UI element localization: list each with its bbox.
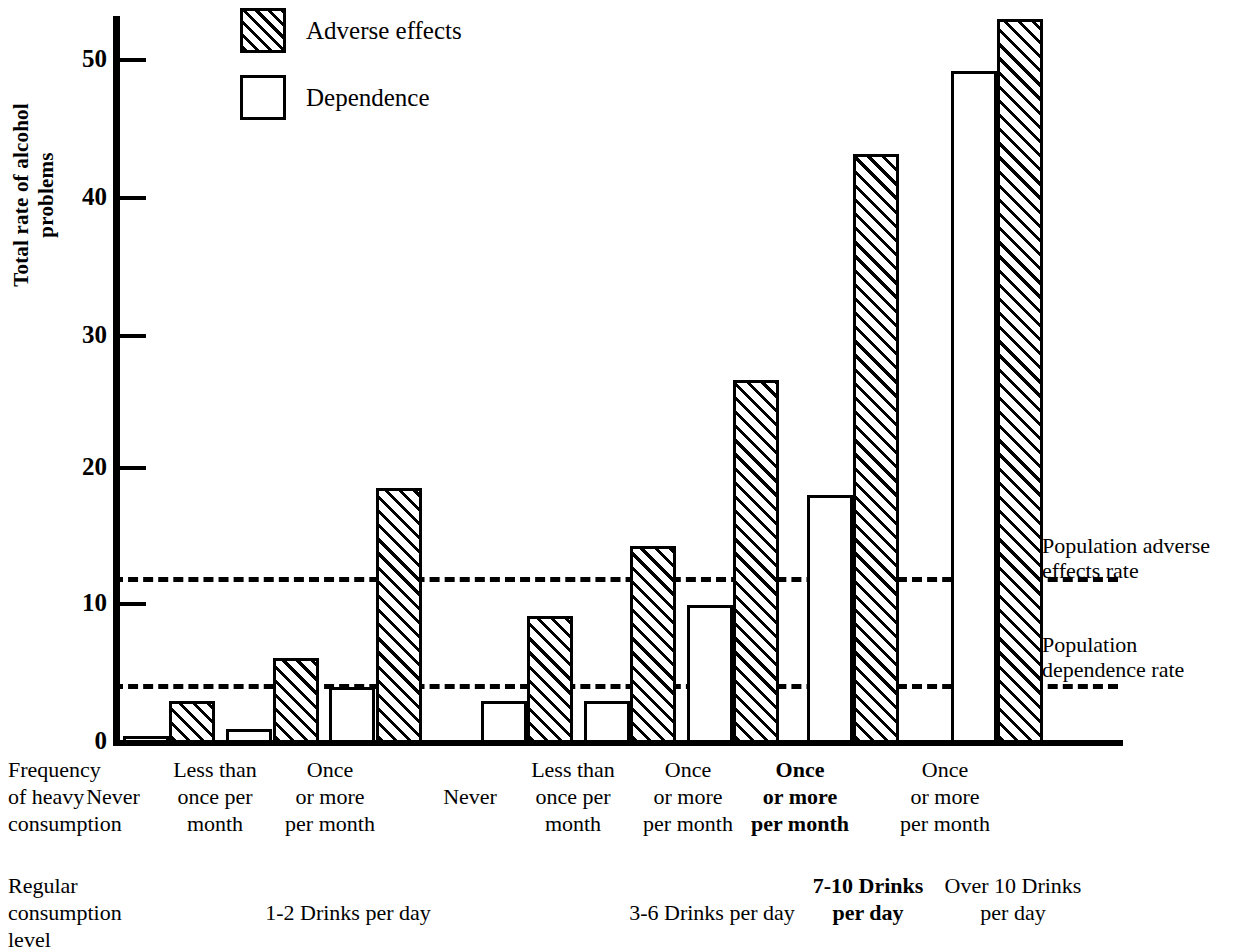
x-frequency-label-8-line2: or more — [875, 783, 1015, 810]
x-frequency-label-3-line1: Once — [260, 756, 400, 783]
bar-dependence-3 — [329, 687, 375, 743]
plot-area — [113, 16, 1123, 743]
x-consumption-level-label-4: Over 10 Drinksper day — [903, 872, 1123, 926]
annotation-adverse-rate-line1: Population adverse — [1042, 533, 1210, 558]
y-axis-title: Total rate of alcohol problems — [9, 65, 59, 325]
x-frequency-label-8-line3: per month — [875, 810, 1015, 837]
bar-adverse-effects-7 — [853, 154, 899, 743]
x-frequency-label-3-line2: or more — [260, 783, 400, 810]
bar-adverse-effects-6 — [733, 380, 779, 744]
bar-dependence-6 — [687, 605, 733, 743]
x-frequency-label-3-line3: per month — [260, 810, 400, 837]
annotation-dependence-rate-line1: Population — [1042, 632, 1137, 657]
x-consumption-level-label-4-line1: Over 10 Drinks — [903, 872, 1123, 899]
annotation-dependence-rate-line2: dependence rate — [1042, 657, 1184, 682]
bar-dependence-8 — [951, 71, 997, 743]
level-row-head-line1: Regular — [8, 872, 78, 899]
level-row-head-line2: consumption — [8, 899, 122, 926]
bar-adverse-effects-2 — [273, 658, 319, 743]
x-axis-consumption-level-row: Regular consumption level 1-2 Drinks per… — [0, 872, 1244, 947]
y-tick-label-0: 0 — [55, 728, 107, 753]
annotation-adverse-rate-line2: effects rate — [1042, 558, 1139, 583]
level-row-head-line3: level — [8, 926, 51, 951]
bar-dependence-5 — [584, 701, 630, 743]
x-axis-frequency-row: Frequency of heavy consumption NeverLess… — [0, 756, 1244, 866]
x-consumption-level-label-1-line1: 1-2 Drinks per day — [238, 899, 458, 926]
x-frequency-label-3: Onceor moreper month — [260, 756, 400, 837]
bar-adverse-effects-4 — [527, 616, 573, 743]
bar-adverse-effects-8 — [997, 19, 1043, 743]
y-tick-label-40: 40 — [55, 184, 107, 209]
bar-dependence-1 — [123, 736, 169, 743]
y-tick-label-20: 20 — [55, 454, 107, 479]
bar-dependence-2 — [226, 729, 272, 743]
bar-dependence-7 — [807, 495, 853, 743]
x-consumption-level-label-4-line2: per day — [903, 899, 1123, 926]
x-frequency-label-7-line1: Once — [730, 756, 870, 783]
x-frequency-label-8-line1: Once — [875, 756, 1015, 783]
bar-adverse-effects-1 — [169, 701, 215, 743]
x-frequency-label-7-line2: or more — [730, 783, 870, 810]
y-tick-label-30: 30 — [55, 322, 107, 347]
x-frequency-label-7-line3: per month — [730, 810, 870, 837]
y-tick-label-50: 50 — [55, 46, 107, 71]
x-frequency-label-7: Onceor moreper month — [730, 756, 870, 837]
y-tick-label-10: 10 — [55, 590, 107, 615]
bar-dependence-4 — [481, 701, 527, 743]
x-frequency-label-8: Onceor moreper month — [875, 756, 1015, 837]
x-consumption-level-label-1: 1-2 Drinks per day — [238, 899, 458, 926]
bar-adverse-effects-3 — [376, 488, 422, 743]
bar-adverse-effects-5 — [630, 546, 676, 743]
